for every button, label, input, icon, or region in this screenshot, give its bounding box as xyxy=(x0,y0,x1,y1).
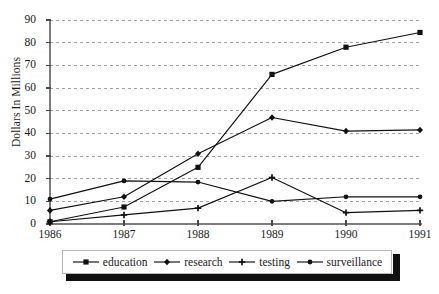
legend-shadow-right xyxy=(393,254,400,276)
legend-entry-research[interactable]: research xyxy=(153,256,222,268)
chart-legend: educationresearchtestingsurveillance xyxy=(62,250,392,274)
gridlines xyxy=(50,20,420,201)
series-research xyxy=(47,114,423,214)
data-series-layer xyxy=(47,30,423,225)
axis-lines xyxy=(50,19,422,224)
legend-label: testing xyxy=(259,256,290,268)
legend-shadow-bottom xyxy=(66,274,400,281)
legend-marker-square-icon xyxy=(72,256,100,268)
series-testing xyxy=(47,174,423,225)
legend-marker-dot-icon xyxy=(296,256,324,268)
legend-label: research xyxy=(184,256,222,268)
legend-marker-cross-icon xyxy=(228,256,256,268)
legend-label: education xyxy=(103,256,148,268)
line-chart-figure: Dollars In Millions 0102030405060708090 … xyxy=(0,0,439,294)
legend-marker-diamond-icon xyxy=(153,256,181,268)
legend-entry-surveillance[interactable]: surveillance xyxy=(296,256,383,268)
series-education xyxy=(47,30,422,224)
legend-label: surveillance xyxy=(327,256,383,268)
legend-entry-education[interactable]: education xyxy=(72,256,148,268)
legend-entry-testing[interactable]: testing xyxy=(228,256,290,268)
